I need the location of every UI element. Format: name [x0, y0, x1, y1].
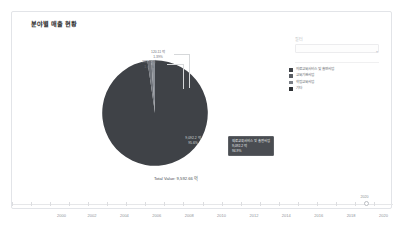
slider-tick: [241, 202, 242, 206]
slider-tick: [203, 202, 204, 206]
legend-item-label: 교육기관사업: [296, 74, 314, 78]
chart-legend: 의료교육서비스 및 출연사업 교육기관사업 학점교육사업 기타: [289, 68, 381, 93]
slider-tick: [145, 202, 146, 206]
pie-callout-label: 288.42 억 1.63%: [142, 60, 156, 69]
slider-handle[interactable]: [364, 201, 369, 206]
legend-item[interactable]: 학점교육사업: [289, 81, 381, 85]
legend-swatch: [289, 74, 293, 78]
axis-tick-label: 2012: [249, 213, 258, 218]
slider-tick: [279, 202, 280, 206]
slider-tick: [12, 202, 13, 206]
callout-leader-line: [174, 54, 189, 55]
filter-divider: [295, 62, 379, 63]
year-timeline-slider[interactable]: 2020 2000 2002 2004 2006 2008 2010 2012 …: [12, 197, 393, 225]
legend-item[interactable]: 기타: [289, 87, 381, 91]
pie-slice-main[interactable]: [102, 60, 208, 166]
callout-value: 120.11 억: [151, 50, 165, 55]
filter-area: 필터 ▾: [295, 36, 379, 63]
axis-tick-label: 2004: [120, 213, 129, 218]
axis-tick-label: 2000: [57, 213, 66, 218]
legend-item-label: 의료교육서비스 및 출연사업: [296, 68, 334, 72]
legend-item-label: 기타: [296, 87, 302, 91]
callout-percent: 1.63%: [142, 65, 156, 70]
chevron-down-icon[interactable]: ▾: [376, 49, 378, 54]
page-title: 분야별 매출 현황: [31, 19, 77, 28]
callout-leader-line: [189, 54, 190, 88]
slider-tick: [374, 202, 375, 206]
axis-tick-label: 2006: [152, 213, 161, 218]
axis-tick-label: 2010: [217, 213, 226, 218]
axis-tick-label: 2014: [282, 213, 291, 218]
chart-tooltip: 의료교육서비스 및 출연사업 9,092.2 억 94.9%: [228, 136, 274, 156]
pie-svg[interactable]: [100, 58, 210, 168]
slider-tick: [336, 202, 337, 206]
slider-tick: [88, 202, 89, 206]
callout-leader-line: [183, 64, 184, 89]
pie-slice-label: 9,092.2 억 95.6%: [173, 136, 213, 145]
legend-item[interactable]: 의료교육서비스 및 출연사업: [289, 68, 381, 72]
slider-value-label: 2020: [361, 195, 369, 199]
slider-tick: [317, 202, 318, 206]
slider-tick: [260, 202, 261, 206]
total-value-label: Total Value: 9,592.66 억: [116, 175, 236, 181]
slice-percent: 95.6%: [173, 141, 213, 146]
slider-tick: [222, 202, 223, 206]
slider-tick: [355, 202, 356, 206]
pie-chart[interactable]: [100, 58, 210, 168]
slider-tick: [126, 202, 127, 206]
filter-label: 필터: [295, 36, 379, 42]
pie-callout-label: 120.11 억 1.39%: [151, 50, 165, 59]
axis-tick-label: 2020: [379, 213, 388, 218]
callout-value: 288.42 억: [142, 60, 156, 65]
axis-tick-label: 2008: [185, 213, 194, 218]
axis-tick-label: 2016: [314, 213, 323, 218]
axis-tick-label: 2002: [88, 213, 97, 218]
slider-tick: [183, 202, 184, 206]
callout-percent: 1.39%: [151, 55, 165, 60]
legend-item[interactable]: 교육기관사업: [289, 74, 381, 78]
callout-leader-line: [167, 64, 183, 65]
slider-tick: [298, 202, 299, 206]
slider-tick: [107, 202, 108, 206]
tooltip-percent: 94.9%: [232, 149, 270, 154]
legend-swatch: [289, 87, 293, 91]
filter-input[interactable]: [295, 44, 379, 53]
legend-swatch: [289, 81, 293, 85]
legend-swatch: [289, 68, 293, 72]
axis-tick-label: 2018: [347, 213, 356, 218]
slider-tick: [31, 202, 32, 206]
slider-tick: [69, 202, 70, 206]
slider-tick: [164, 202, 165, 206]
legend-item-label: 학점교육사업: [296, 81, 314, 85]
slider-tick: [50, 202, 51, 206]
